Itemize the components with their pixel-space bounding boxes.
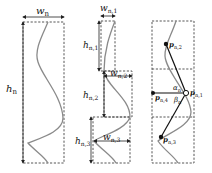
- width-label: wn: [36, 5, 50, 18]
- point-p1: [183, 90, 188, 95]
- point-p3-label: pn,3: [163, 135, 176, 145]
- width-label-2: wn,2: [110, 68, 127, 79]
- diagram-canvas: wn hn wn,1 hn,1 wn,2 hn,2: [0, 0, 212, 173]
- height-label-2: hn,2: [83, 90, 99, 101]
- angle-beta-label: βn: [173, 96, 182, 105]
- width-label-3: wn,3: [103, 132, 120, 143]
- point-p2-label: pn,2: [169, 40, 182, 50]
- point-p4-label: pn,4: [155, 93, 168, 103]
- height-label-3: hn,3: [75, 136, 91, 147]
- width-label-1: wn,1: [100, 3, 117, 14]
- point-p2: [164, 42, 168, 46]
- point-p1-label: pn,1: [190, 88, 203, 98]
- height-label: hn: [6, 83, 17, 96]
- height-label-1: hn,1: [83, 40, 98, 51]
- panel-whole: wn hn: [6, 5, 64, 163]
- panel-segments: wn,1 hn,1 wn,2 hn,2 wn,3 hn,3: [75, 3, 132, 163]
- angle-alpha-label: αn: [173, 84, 182, 93]
- wave-curve: [28, 22, 63, 163]
- panel-points: pn,2 pn,1 pn,3 pn,4 αn βn: [151, 21, 203, 163]
